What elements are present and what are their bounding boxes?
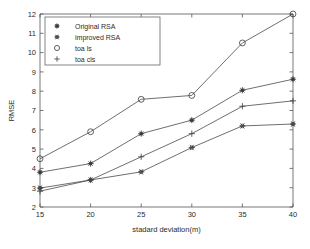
figure-canvas: 23456789101112152025303540stadard deviat… xyxy=(0,0,310,249)
y-tick-label: 10 xyxy=(28,48,36,57)
y-tick-label: 9 xyxy=(32,68,36,77)
series-line xyxy=(40,101,293,191)
y-axis-label: RMSE xyxy=(7,100,16,122)
x-tick-label: 35 xyxy=(238,210,246,219)
series-line xyxy=(40,124,293,188)
marker-star-core xyxy=(241,89,244,92)
legend-label: improved RSA xyxy=(75,34,120,42)
legend-label: Original RSA xyxy=(75,23,116,31)
rmse-line-chart: 23456789101112152025303540stadard deviat… xyxy=(0,0,310,249)
y-tick-label: 12 xyxy=(28,10,36,19)
y-tick-label: 5 xyxy=(32,145,36,154)
series-2 xyxy=(37,121,296,190)
x-tick-label: 30 xyxy=(188,210,196,219)
marker-star-core xyxy=(89,162,92,165)
legend-label: toa ls xyxy=(75,45,92,52)
marker-star-core xyxy=(190,119,193,122)
legend-label: toa cls xyxy=(75,56,96,63)
marker-star-core xyxy=(39,171,42,174)
series-4 xyxy=(37,98,296,195)
marker-star-core xyxy=(140,132,143,135)
legend: Original RSAimproved RSAtoa lstoa cls xyxy=(45,17,160,65)
y-tick-label: 4 xyxy=(32,164,36,173)
x-axis-label: stadard deviation(m) xyxy=(132,225,201,234)
y-tick-label: 3 xyxy=(32,184,36,193)
x-tick-label: 25 xyxy=(137,210,145,219)
marker-star-core xyxy=(292,78,295,81)
y-tick-label: 7 xyxy=(32,106,36,115)
y-tick-label: 6 xyxy=(32,126,36,135)
x-tick-label: 15 xyxy=(36,210,44,219)
x-tick-label: 20 xyxy=(86,210,94,219)
x-tick-label: 40 xyxy=(289,210,297,219)
y-tick-label: 8 xyxy=(32,87,36,96)
y-tick-label: 11 xyxy=(28,29,36,38)
marker-star-core xyxy=(56,25,59,28)
